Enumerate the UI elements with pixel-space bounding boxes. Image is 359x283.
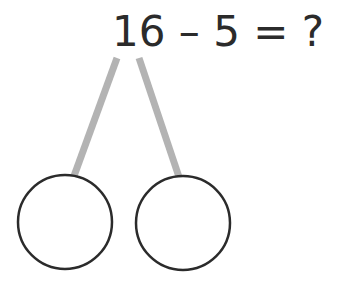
left-part-circle[interactable] [18,175,112,269]
right-part-circle[interactable] [136,176,230,270]
equation-text: 16 – 5 = ? [112,7,324,56]
left-connector-line [74,58,117,176]
right-connector-line [139,58,179,177]
number-bond-diagram: 16 – 5 = ? [0,0,359,283]
